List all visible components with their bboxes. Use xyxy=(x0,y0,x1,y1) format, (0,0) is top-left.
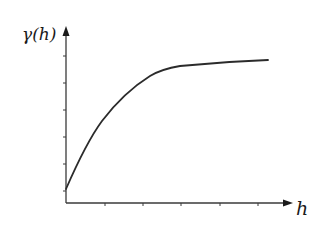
variogram-chart: γ(h) h xyxy=(0,0,316,233)
variogram-curve xyxy=(66,60,268,189)
y-axis-arrow-icon xyxy=(63,26,70,36)
chart-canvas: γ(h) h xyxy=(0,0,316,233)
x-axis-label: h xyxy=(296,197,308,219)
y-axis-label: γ(h) xyxy=(22,24,56,44)
x-axis-arrow-icon xyxy=(283,200,293,207)
